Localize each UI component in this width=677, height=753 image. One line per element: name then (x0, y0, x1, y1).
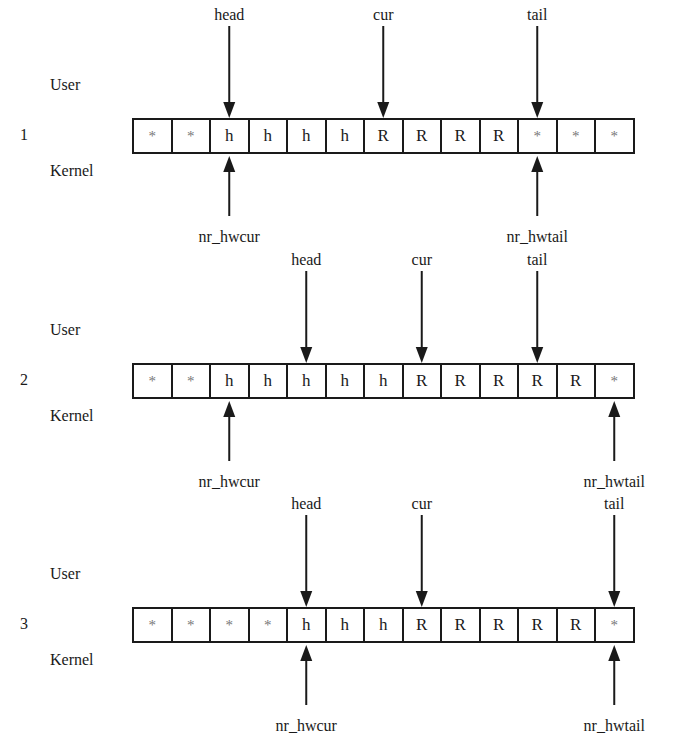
pointer-arrows (0, 0, 677, 753)
